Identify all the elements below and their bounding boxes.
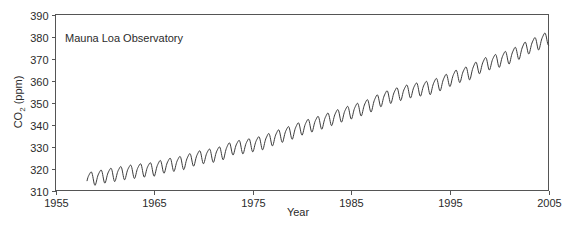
y-tick-label: 390 (30, 10, 48, 22)
y-tick-label: 340 (30, 120, 48, 132)
chart-canvas: 310320330340350360370380390 195519651975… (0, 0, 578, 232)
y-tick-label: 380 (30, 32, 48, 44)
y-tick-label: 350 (30, 98, 48, 110)
y-axis-title-unit: (ppm) (12, 76, 24, 108)
x-tick-label: 1995 (438, 197, 462, 209)
x-tick-label: 2005 (537, 197, 561, 209)
data-line-co2 (87, 33, 548, 185)
co2-chart-figure: 310320330340350360370380390 195519651975… (0, 0, 578, 232)
x-tick-label: 1975 (241, 197, 265, 209)
x-axis-title: Year (287, 206, 310, 218)
plot-annotation: Mauna Loa Observatory (65, 32, 184, 44)
y-axis-title-main: CO (12, 111, 24, 128)
y-tick-label: 360 (30, 76, 48, 88)
x-tick-label: 1955 (44, 197, 68, 209)
y-axis-title: CO2 (ppm) (12, 76, 27, 129)
y-tick-label: 320 (30, 164, 48, 176)
x-axis-ticks (57, 191, 550, 195)
y-tick-label: 330 (30, 142, 48, 154)
y-tick-label: 370 (30, 54, 48, 66)
x-tick-label: 1985 (339, 197, 363, 209)
y-axis-ticks (52, 16, 56, 192)
y-axis-tick-labels: 310320330340350360370380390 (30, 10, 48, 198)
data-series-group (87, 33, 548, 185)
x-tick-label: 1965 (142, 197, 166, 209)
